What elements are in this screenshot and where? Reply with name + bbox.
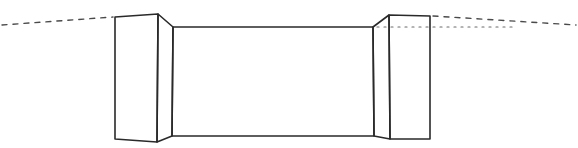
perspective-sketch	[0, 0, 578, 148]
right-pillar-front-face	[389, 15, 430, 139]
back-wall	[172, 27, 374, 136]
left-pillar-front-face	[115, 14, 158, 142]
left-perspective-guide-line	[2, 17, 113, 25]
right-pillar-side-face	[373, 15, 390, 139]
right-perspective-guide-line	[433, 16, 576, 25]
left-pillar-side-face	[157, 14, 173, 142]
sketch-svg	[0, 0, 578, 148]
